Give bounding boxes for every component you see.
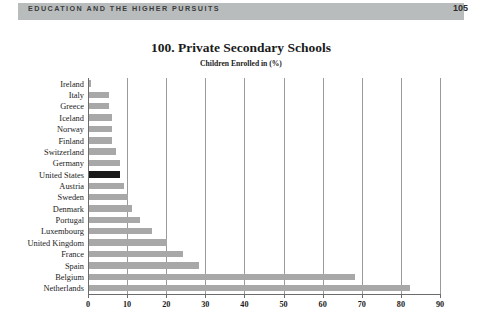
x-axis-tick bbox=[323, 294, 324, 298]
chart-row: Switzerland bbox=[88, 146, 440, 157]
gridline bbox=[440, 78, 441, 294]
chart-row: Belgium bbox=[88, 272, 440, 283]
x-axis-tick-label: 20 bbox=[162, 300, 170, 309]
bar bbox=[89, 274, 355, 280]
y-axis-category-label: Luxembourg bbox=[41, 227, 84, 236]
bar bbox=[89, 205, 132, 211]
y-axis-category-label: Belgium bbox=[55, 272, 84, 281]
y-axis-category-label: France bbox=[61, 250, 84, 259]
x-axis-tick bbox=[284, 294, 285, 298]
chart-row: Spain bbox=[88, 260, 440, 271]
y-axis-category-label: Spain bbox=[65, 261, 84, 270]
x-axis-tick-label: 0 bbox=[86, 300, 90, 309]
chart-row: Netherlands bbox=[88, 283, 440, 294]
bar bbox=[89, 92, 109, 98]
y-axis-category-label: Ireland bbox=[60, 79, 84, 88]
bar bbox=[89, 160, 120, 166]
bar bbox=[89, 114, 112, 120]
chart-row: France bbox=[88, 249, 440, 260]
y-axis-category-label: Sweden bbox=[57, 193, 84, 202]
chart-row: Italy bbox=[88, 90, 440, 101]
x-axis-tick-label: 70 bbox=[358, 300, 366, 309]
chart-row: Norway bbox=[88, 124, 440, 135]
running-header-title: EDUCATION AND THE HIGHER PURSUITS bbox=[28, 4, 220, 13]
y-axis-category-label: United Kingdom bbox=[27, 238, 84, 247]
x-axis-tick-label: 30 bbox=[201, 300, 209, 309]
chart-subtitle: Children Enrolled in (%) bbox=[0, 59, 482, 68]
x-axis-tick bbox=[127, 294, 128, 298]
chart-row: Luxembourg bbox=[88, 226, 440, 237]
bar bbox=[89, 171, 120, 177]
chart-row: Greece bbox=[88, 101, 440, 112]
y-axis-category-label: United States bbox=[39, 170, 84, 179]
x-axis-tick bbox=[362, 294, 363, 298]
bar bbox=[89, 183, 124, 189]
x-axis-tick-label: 60 bbox=[319, 300, 327, 309]
chart-row: United Kingdom bbox=[88, 237, 440, 248]
chart-title: 100. Private Secondary Schools bbox=[0, 40, 482, 56]
y-axis-category-label: Greece bbox=[60, 102, 84, 111]
y-axis-category-label: Switzerland bbox=[44, 147, 84, 156]
bar bbox=[89, 285, 410, 291]
x-axis-tick bbox=[205, 294, 206, 298]
chart-row: Germany bbox=[88, 158, 440, 169]
x-axis-tick bbox=[401, 294, 402, 298]
x-axis-tick-label: 50 bbox=[279, 300, 287, 309]
x-axis-tick-label: 10 bbox=[123, 300, 131, 309]
bar bbox=[89, 262, 199, 268]
y-axis-line bbox=[88, 78, 89, 295]
chart-plot-area: IrelandItalyGreeceIcelandNorwayFinlandSw… bbox=[88, 78, 440, 294]
y-axis-category-label: Iceland bbox=[59, 113, 84, 122]
chart-row: Ireland bbox=[88, 78, 440, 89]
chart-row: Austria bbox=[88, 181, 440, 192]
chart-row: United States bbox=[88, 169, 440, 180]
y-axis-category-label: Finland bbox=[58, 136, 84, 145]
page-number: 105 bbox=[453, 3, 468, 13]
bar bbox=[89, 148, 116, 154]
chart-row: Finland bbox=[88, 135, 440, 146]
y-axis-category-label: Austria bbox=[59, 181, 84, 190]
chart-row: Portugal bbox=[88, 215, 440, 226]
bar bbox=[89, 228, 152, 234]
x-axis-tick bbox=[166, 294, 167, 298]
bar bbox=[89, 137, 112, 143]
x-axis-tick-label: 40 bbox=[240, 300, 248, 309]
bar bbox=[89, 251, 183, 257]
y-axis-category-label: Netherlands bbox=[44, 284, 84, 293]
y-axis-category-label: Germany bbox=[53, 159, 84, 168]
x-axis-tick-label: 90 bbox=[436, 300, 444, 309]
x-axis-tick-label: 80 bbox=[397, 300, 405, 309]
bar bbox=[89, 217, 140, 223]
y-axis-category-label: Norway bbox=[57, 125, 84, 134]
y-axis-category-label: Portugal bbox=[56, 216, 84, 225]
y-axis-category-label: Italy bbox=[69, 91, 84, 100]
bar bbox=[89, 239, 167, 245]
bar bbox=[89, 80, 91, 86]
chart-row: Denmark bbox=[88, 203, 440, 214]
chart-row: Sweden bbox=[88, 192, 440, 203]
bar bbox=[89, 194, 128, 200]
y-axis-category-label: Denmark bbox=[53, 204, 84, 213]
x-axis-tick bbox=[244, 294, 245, 298]
bar bbox=[89, 126, 112, 132]
x-axis-tick bbox=[88, 294, 89, 298]
x-axis-line bbox=[88, 294, 440, 295]
x-axis-tick bbox=[440, 294, 441, 298]
chart-row: Iceland bbox=[88, 112, 440, 123]
bar bbox=[89, 103, 109, 109]
